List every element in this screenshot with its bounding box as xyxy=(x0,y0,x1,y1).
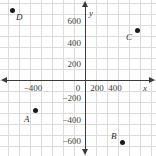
grid-line-horizontal-1 xyxy=(0,14,156,15)
point-b-dot xyxy=(120,140,125,145)
y-tick-label-1: 400 xyxy=(47,38,81,48)
x-tick-label-3: 400 xyxy=(100,83,130,93)
x-axis-left-arrow-icon xyxy=(1,77,7,83)
grid-line-horizontal-6 xyxy=(0,69,156,70)
point-c-label: C xyxy=(126,33,132,42)
y-axis-line xyxy=(85,4,86,152)
grid-line-vertical-8 xyxy=(96,0,97,156)
point-a-label: A xyxy=(24,115,30,124)
grid-line-vertical-9 xyxy=(107,0,108,156)
point-b-label: B xyxy=(111,132,117,141)
point-a-dot xyxy=(33,108,38,113)
grid-line-vertical-3 xyxy=(41,0,42,156)
grid-line-vertical-12 xyxy=(140,0,141,156)
y-tick-label-2: 200 xyxy=(47,59,81,69)
grid-line-vertical-2 xyxy=(30,0,31,156)
coordinate-plane-figure: x y −4000200400 600400200−200−400−600 DC… xyxy=(0,0,156,156)
grid-line-vertical-11 xyxy=(129,0,130,156)
grid-line-vertical-1 xyxy=(19,0,20,156)
x-tick-label-0: −400 xyxy=(18,83,48,93)
grid-line-vertical-0 xyxy=(8,0,9,156)
x-axis-right-arrow-icon xyxy=(149,77,155,83)
point-d-label: D xyxy=(16,13,23,22)
grid-line-vertical-10 xyxy=(118,0,119,156)
y-tick-label-0: 600 xyxy=(47,16,81,26)
grid-line-horizontal-3 xyxy=(0,36,156,37)
x-axis-line xyxy=(4,80,152,81)
y-tick-label-5: −600 xyxy=(47,136,81,146)
y-axis-up-arrow-icon xyxy=(82,1,88,7)
x-axis-label: x xyxy=(143,83,147,93)
y-axis-down-arrow-icon xyxy=(82,149,88,155)
grid-line-horizontal-13 xyxy=(0,146,156,147)
grid-line-horizontal-0 xyxy=(0,3,156,4)
point-c-dot xyxy=(135,28,140,33)
point-d-dot xyxy=(10,8,15,13)
y-axis-label: y xyxy=(89,8,93,18)
y-tick-label-4: −400 xyxy=(47,115,81,125)
y-tick-label-3: −200 xyxy=(47,93,81,103)
